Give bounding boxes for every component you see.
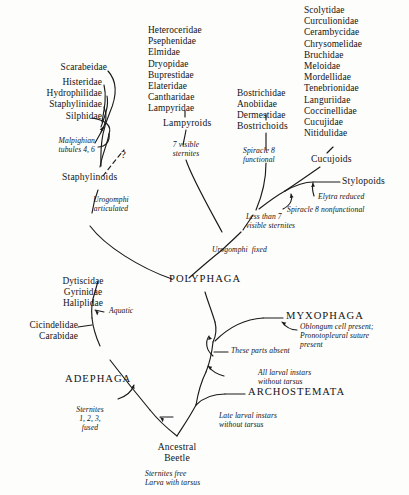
clade-bostrichoids: Bostrichoids xyxy=(237,120,288,131)
branch-lampyroids-to-base xyxy=(186,160,222,232)
clade-stylopoids: Stylopoids xyxy=(342,175,385,186)
clade-archostemata: ARCHOSTEMATA xyxy=(248,386,345,397)
branch-myxophaga-join xyxy=(215,318,263,341)
branch-trunk-lower xyxy=(196,372,206,405)
branch-root-left xyxy=(150,410,177,436)
character-sternites-fused: Sternites 1, 2, 3, fused xyxy=(62,405,118,432)
character-spiracle8-functional: Spiracle 8 functional xyxy=(243,146,305,164)
character-urogomphi-articulated: Urogomphi articulated xyxy=(78,195,144,213)
clade-cucujoids: Cucujoids xyxy=(311,153,352,164)
family-list-lampyroids: Heteroceridae Psephenidae Elmidae Dryopi… xyxy=(148,25,202,115)
cladogram-canvas: Scarabeidae Histeridae Hydrophilidae Sta… xyxy=(0,0,409,495)
character-oblongum-cell: Oblongum cell present; Pronotopleural su… xyxy=(300,322,400,349)
character-these-parts-absent: These parts absent xyxy=(231,346,290,355)
clade-staphylinoids: Staphylinoids xyxy=(62,171,117,182)
root-ancestral-beetle: Ancestral Beetle xyxy=(138,441,216,463)
family-list-cucujoids: Scolytidae Curculionidae Cerambycidae Ch… xyxy=(304,5,362,139)
family-list-bostrichoids: Bostrichidae Anobiidae Dermestidae xyxy=(237,88,286,122)
character-ancestral-state: Sternites free Larva with tarsus xyxy=(145,469,200,487)
clade-adephaga: ADEPHAGA xyxy=(65,373,131,384)
branch-cucujoid-stylopoid-stem xyxy=(259,191,285,209)
family-list-adephaga-terrestrial: Cicindelidae Carabidae xyxy=(0,320,78,342)
family-list-staphylinoids: Histeridae Hydrophilidae Staphylinidae S… xyxy=(0,77,102,122)
branch-polyphaga-trunk xyxy=(213,322,216,342)
clade-lampyroids: Lampyroids xyxy=(163,117,211,128)
clade-polyphaga: POLYPHAGA xyxy=(169,273,241,284)
branch-polyphaga-down xyxy=(205,292,215,322)
character-less-than-7-sternites: Less than 7 visible sternites xyxy=(246,212,320,230)
branch-adephaga-stem xyxy=(110,360,150,410)
character-urogomphi-fixed: Urogomphi fixed xyxy=(212,245,267,254)
character-elytra-reduced: Elytra reduced xyxy=(318,192,364,201)
clade-myxophaga: MYXOPHAGA xyxy=(286,310,364,321)
branch-bostrichoids-to-base xyxy=(256,163,266,210)
uncertainty-question-mark: ? xyxy=(121,149,126,160)
branch-archostemata-join xyxy=(196,394,225,405)
character-aquatic: Aquatic xyxy=(109,306,133,315)
family-list-adephaga-aquatic: Dytiscidae Gyrinidae Haliplidae xyxy=(42,276,124,310)
branch-adephaga-up xyxy=(92,318,100,346)
character-all-larval-instars: All larval instars without tarsus xyxy=(258,368,348,386)
character-late-larval-instars: Late larval instars without tarsus xyxy=(219,411,311,429)
branch-carabidae xyxy=(78,325,92,327)
branch-cucujoids-down xyxy=(285,167,320,191)
branch-root-right xyxy=(177,405,196,436)
family-list-scarabeidae: Scarabeidae xyxy=(0,62,107,73)
character-malpighian-tubules: Malpighian tubules 4, 6 xyxy=(0,136,95,154)
character-seven-sternites: 7 visible sternites xyxy=(156,140,216,158)
arrowhead-elytra-reduced xyxy=(311,183,315,187)
branch-stylopoids-join xyxy=(285,182,313,191)
branch-staphylinoids-to-polyphaga xyxy=(90,226,172,279)
